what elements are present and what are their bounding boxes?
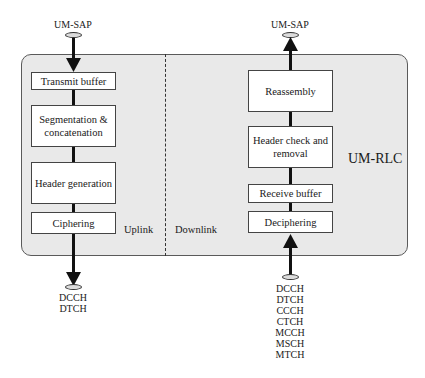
downlink-line [289, 112, 292, 126]
segmentation-label: Segmentation & concatenation [34, 113, 113, 139]
reassembly-label: Reassembly [265, 85, 316, 98]
downlink-in-arrow-icon [283, 234, 298, 248]
uplink-line [72, 90, 75, 105]
deciphering-box: Deciphering [248, 211, 333, 233]
downlink-top-sap-label: UM-SAP [265, 19, 315, 30]
uplink-channels-label: DCCH DTCH [48, 292, 98, 314]
transmit-buffer-box: Transmit buffer [31, 72, 116, 90]
uplink-top-sap-label: UM-SAP [48, 19, 98, 30]
downlink-line [289, 50, 292, 70]
downlink-up-arrow-icon [283, 37, 298, 51]
um-rlc-title: UM-RLC [348, 151, 402, 167]
downlink-line [289, 247, 292, 276]
uplink-label: Uplink [124, 224, 153, 235]
header-generation-label: Header generation [35, 177, 112, 190]
ciphering-label: Ciphering [53, 217, 95, 230]
uplink-channel-ellipse-icon [65, 284, 82, 290]
uplink-down-arrow-icon [66, 58, 81, 72]
transmit-buffer-label: Transmit buffer [41, 75, 107, 88]
reassembly-box: Reassembly [248, 70, 333, 112]
header-generation-box: Header generation [31, 162, 116, 204]
uplink-line [72, 38, 75, 60]
uplink-line [72, 234, 75, 274]
receive-buffer-box: Receive buffer [248, 184, 333, 203]
downlink-line [289, 203, 292, 211]
downlink-label: Downlink [175, 224, 217, 235]
ciphering-box: Ciphering [31, 212, 116, 234]
uplink-line [72, 147, 75, 162]
downlink-channels-label: DCCH DTCH CCCH CTCH MCCH MSCH MTCH [265, 283, 315, 360]
header-check-label: Header check and removal [251, 134, 330, 160]
uplink-line [72, 204, 75, 212]
downlink-channel-ellipse-icon [282, 274, 299, 280]
uplink-downlink-divider [165, 54, 166, 256]
header-check-box: Header check and removal [248, 126, 333, 168]
segmentation-box: Segmentation & concatenation [31, 105, 116, 147]
downlink-line [289, 168, 292, 184]
receive-buffer-label: Receive buffer [260, 187, 322, 200]
deciphering-label: Deciphering [265, 216, 317, 229]
